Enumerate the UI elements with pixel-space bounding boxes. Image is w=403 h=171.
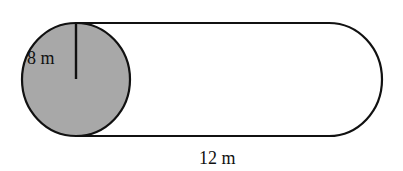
cylinder-diagram: 8 m 12 m [0, 0, 403, 171]
length-label: 12 m [199, 148, 236, 168]
radius-label: 8 m [27, 48, 55, 68]
